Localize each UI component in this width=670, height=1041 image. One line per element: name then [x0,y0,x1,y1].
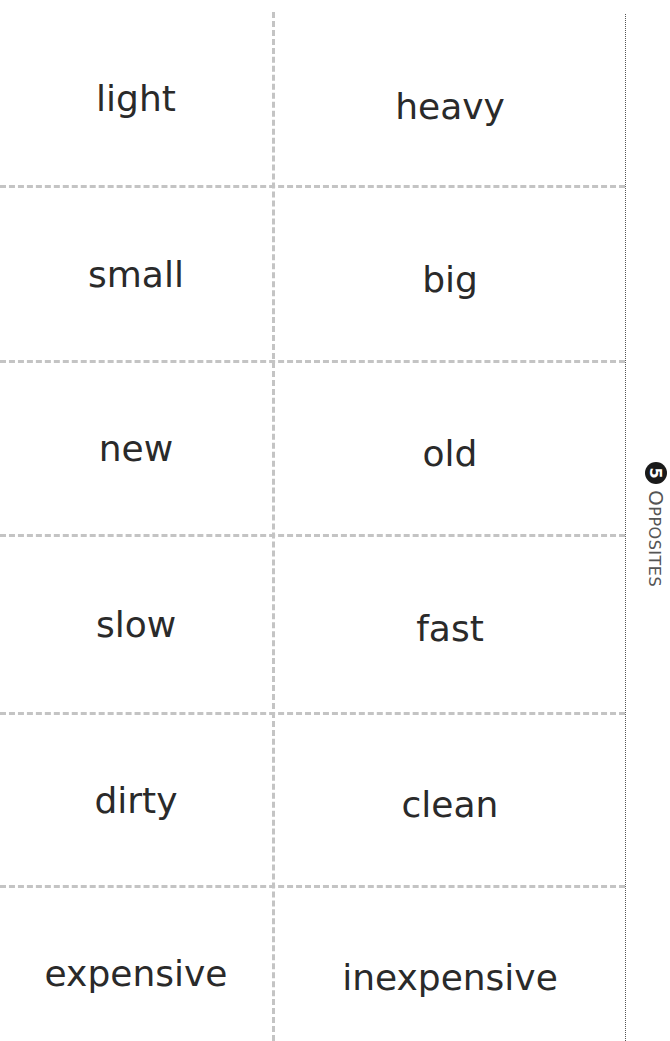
word-label: clean [402,784,499,825]
card-word: new [0,363,272,534]
card-word: small [0,188,272,360]
word-label: slow [96,604,176,645]
word-label: old [423,433,478,474]
card-word: heavy [275,12,625,200]
word-label: light [96,78,176,119]
card-word: big [275,188,625,370]
title-rest: PPOSITES [645,506,664,587]
card-word: inexpensive [275,888,625,1041]
section-number-badge: 5 [645,462,667,484]
title-initial: O [644,490,668,506]
word-label: dirty [94,780,177,821]
flashcard-sheet: light heavy small big new old slow fast … [0,0,670,1041]
card-word: expensive [0,888,272,1041]
card-word: fast [275,537,625,719]
word-label: big [422,259,478,300]
section-label: 5 OPPOSITES [644,462,668,587]
page-edge-dotted-line [625,14,626,1041]
word-label: new [99,428,173,469]
word-label: fast [416,608,484,649]
card-word: dirty [0,715,272,885]
section-title: OPPOSITES [644,490,668,587]
word-label: expensive [45,953,228,994]
word-label: inexpensive [342,957,558,998]
word-label: small [88,254,184,295]
card-word: slow [0,537,272,712]
card-word: light [0,12,272,185]
word-label: heavy [395,86,505,127]
card-word: clean [275,715,625,893]
card-word: old [275,363,625,544]
